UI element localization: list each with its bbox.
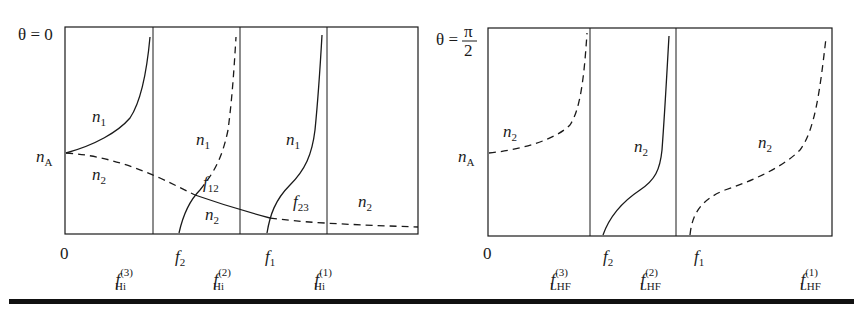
label-f23: f23 — [293, 192, 309, 213]
label-fhi1: f(1)Hi — [314, 266, 332, 292]
label-fhi2: f(2)Hi — [213, 266, 231, 292]
right-origin-label: 0 — [483, 244, 492, 263]
label-n1-c: n1 — [286, 130, 300, 151]
theta-numerator: π — [464, 22, 473, 41]
label-n2-b: n2 — [205, 205, 219, 226]
curve-n2-right-region2 — [603, 36, 669, 235]
label-flhf2: f(2)LHF — [640, 266, 661, 292]
right-plot-frame — [488, 28, 832, 236]
right-theta-title: θ = — [436, 30, 458, 49]
curve-n1-region1 — [66, 37, 150, 153]
label-right-n2-c: n2 — [758, 133, 772, 154]
label-flhf3: f(3)LHF — [550, 266, 571, 292]
right-panel: θ = π 2 nA n2 n2 n2 0 f(3)LHF f2 f(2)LHF… — [436, 22, 832, 292]
curve-n1-region2-dashed — [200, 37, 236, 190]
curve-n2-dashed-tail — [270, 218, 418, 227]
theta-denominator: 2 — [464, 41, 473, 60]
left-origin-label: 0 — [60, 244, 69, 263]
bottom-rule — [9, 299, 854, 304]
left-na-label: nA — [36, 147, 53, 168]
label-right-n2-b: n2 — [634, 137, 648, 158]
curve-from-f2 — [179, 190, 200, 233]
label-flhf1: f(1)LHF — [800, 266, 821, 292]
left-theta-title: θ = 0 — [18, 25, 53, 44]
label-n1-b: n1 — [196, 130, 210, 151]
label-n2-c: n2 — [358, 192, 372, 213]
dispersion-diagram: θ = 0 nA n1 n2 n1 f12 n2 n1 f23 n2 0 f(3… — [0, 0, 854, 317]
label-n1-a: n1 — [92, 107, 106, 128]
label-f1: f1 — [265, 247, 275, 268]
right-na-label: nA — [458, 147, 475, 168]
label-f2: f2 — [175, 247, 185, 268]
label-right-f1: f1 — [694, 247, 704, 268]
label-n2-a: n2 — [92, 165, 106, 186]
label-right-f2: f2 — [603, 247, 613, 268]
curve-n2-dashed-start — [66, 153, 195, 195]
left-panel: θ = 0 nA n1 n2 n1 f12 n2 n1 f23 n2 0 f(3… — [18, 25, 418, 292]
label-fhi3: f(3)Hi — [115, 266, 133, 292]
label-right-n2-a: n2 — [503, 122, 517, 143]
